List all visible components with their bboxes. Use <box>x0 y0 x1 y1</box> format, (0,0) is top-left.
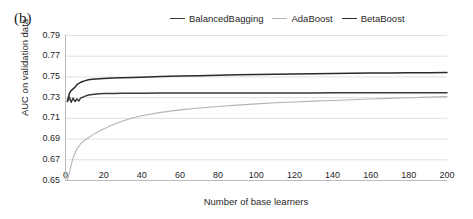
series-line-adaboost <box>67 97 447 181</box>
figure-panel-b: (b) BalancedBagging AdaBoost BetaBoost A… <box>0 0 473 219</box>
gridlines <box>66 36 448 181</box>
plot-canvas <box>0 0 473 219</box>
